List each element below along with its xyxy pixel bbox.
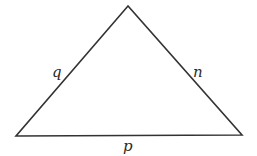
side-label-left: q bbox=[52, 63, 62, 81]
side-label-bottom: p bbox=[123, 137, 133, 155]
side-label-right: n bbox=[193, 63, 203, 81]
triangle bbox=[16, 6, 242, 136]
triangle-diagram: q n p bbox=[0, 0, 257, 156]
